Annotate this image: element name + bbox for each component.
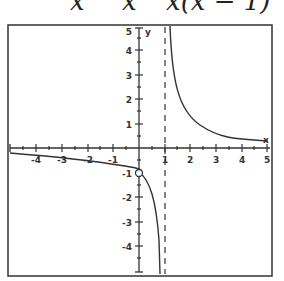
svg-text:5: 5 (264, 155, 270, 165)
svg-text:-2: -2 (122, 193, 132, 203)
svg-text:-4: -4 (31, 155, 41, 165)
svg-text:2: 2 (187, 155, 193, 165)
open-point-hole (136, 170, 143, 177)
svg-text:4: 4 (126, 46, 132, 56)
svg-text:5: 5 (126, 27, 132, 37)
y-axis-label: y (145, 27, 151, 37)
plot-frame (8, 25, 272, 276)
svg-text:4: 4 (239, 155, 245, 165)
graph: -4 -3 -2 -1 1 2 3 4 5 5 4 3 2 1 -1 -2 -3… (0, 0, 284, 281)
svg-text:3: 3 (126, 71, 132, 81)
svg-text:-4: -4 (122, 242, 132, 252)
svg-text:-1: -1 (122, 169, 132, 179)
x-axis-label: x (263, 135, 269, 145)
svg-text:3: 3 (213, 155, 219, 165)
svg-text:2: 2 (126, 95, 132, 105)
svg-text:1: 1 (126, 120, 132, 130)
svg-text:-3: -3 (122, 218, 132, 228)
svg-text:-3: -3 (57, 155, 67, 165)
